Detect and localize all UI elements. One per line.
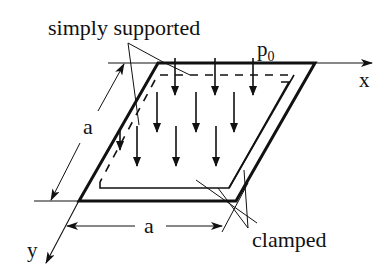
- x-axis-label: x: [359, 68, 370, 92]
- side-bottom-label: a: [144, 213, 154, 238]
- dimension-bottom: [67, 183, 248, 232]
- clamped-edge-line: [100, 82, 289, 188]
- load-label: p0: [257, 37, 275, 64]
- side-left-label: a: [83, 114, 93, 139]
- simply-supported-edge-left: [100, 80, 155, 182]
- load-arrows: [120, 58, 253, 166]
- simply-supported-label: simply supported: [48, 15, 200, 40]
- clamped-label: clamped: [252, 227, 327, 252]
- simply-supported-leaders: [128, 43, 190, 125]
- y-axis-label: y: [27, 238, 38, 262]
- clamped-edge-right: [229, 75, 294, 188]
- y-axis: [46, 193, 83, 263]
- plate-diagram: simply supported p0 x y a a clamped: [0, 0, 386, 269]
